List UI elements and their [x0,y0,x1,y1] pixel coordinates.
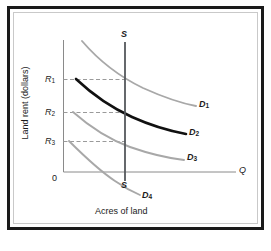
y-tick-label-r2: R2 [45,107,55,117]
y-tick-label-r1: R1 [45,74,55,84]
y-tick-label-r3: R3 [45,136,55,146]
demand-d3-subscript: 3 [194,155,198,162]
y-tick-r3-subscript: 3 [52,139,56,146]
demand-label-d1: D1 [199,99,209,109]
x-axis-title: Acres of land [95,206,148,216]
supply-label-bottom: S [121,180,127,190]
origin-label: 0 [52,173,57,183]
y-tick-r1-subscript: 1 [52,77,56,84]
demand-d2-subscript: 2 [196,130,200,137]
demand-curve-d1 [82,41,196,106]
demand-curve-d3 [73,112,184,160]
y-axis-title: Land rent (dollars) [20,57,30,149]
demand-curve-d2 [76,79,186,134]
supply-label-top: S [121,29,127,39]
demand-d1-subscript: 1 [206,102,210,109]
demand-label-d3: D3 [187,152,197,162]
demand-curve-d4 [69,141,140,195]
demand-label-d2: D2 [189,127,199,137]
demand-d4-subscript: 4 [149,193,153,200]
demand-label-d4: D4 [142,190,152,200]
x-axis-end-label: Q [239,165,246,175]
y-tick-r2-subscript: 2 [52,110,56,117]
figure-root: Land rent (dollars) Acres of land R1 R2 … [0,0,271,251]
